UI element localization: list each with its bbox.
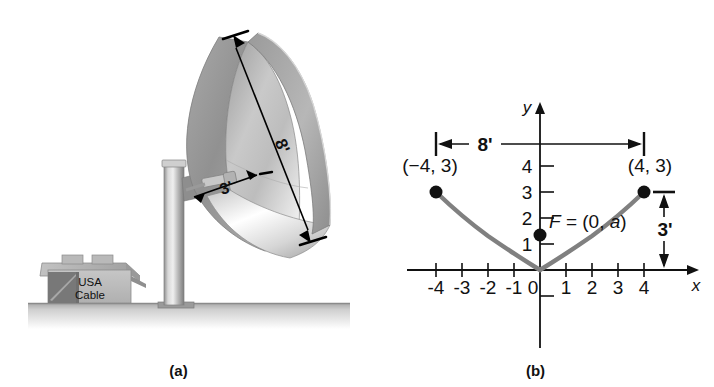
- point-label-left: (−4, 3): [402, 155, 457, 176]
- building-label-line1: USA: [78, 276, 102, 288]
- x-tick-label: -4: [428, 277, 445, 298]
- point-label-focus: F = (0, a): [549, 211, 627, 232]
- panel-a-caption: (a): [0, 362, 357, 379]
- dimension-3ft-height-label: 3': [657, 219, 672, 240]
- x-tick-label: -2: [480, 277, 497, 298]
- panel-b-chart: x y -4 -3 -2: [357, 0, 714, 387]
- dimension-8ft-width-label: 8': [477, 134, 492, 155]
- point-label-right: (4, 3): [628, 155, 672, 176]
- y-tick-label: 1: [522, 234, 533, 255]
- building-label-line2: Cable: [75, 289, 105, 301]
- x-tick-label: 3: [613, 277, 624, 298]
- y-tick-label: 4: [522, 156, 533, 177]
- satellite-dish-illustration: USA Cable: [0, 0, 357, 387]
- parabola-chart: x y -4 -3 -2: [357, 0, 714, 387]
- figure-root: USA Cable: [0, 0, 714, 387]
- dimension-3ft-height: 3': [651, 192, 679, 268]
- x-tick-label: -1: [506, 277, 523, 298]
- x-tick-label: 0: [528, 277, 539, 298]
- satellite-dish: [186, 33, 330, 258]
- point-right-endpoint: [638, 186, 651, 199]
- panel-b-caption: (b): [357, 362, 714, 379]
- x-tick-label: -3: [454, 277, 471, 298]
- x-tick-label: 2: [587, 277, 598, 298]
- y-tick-label: 3: [522, 182, 533, 203]
- y-axis-tick-labels: 1 2 3 4: [522, 156, 533, 255]
- y-tick-label: 2: [522, 208, 533, 229]
- x-tick-label: 4: [639, 277, 650, 298]
- point-focus: [534, 229, 547, 242]
- x-axis: x: [407, 265, 701, 295]
- x-tick-label: 1: [561, 277, 572, 298]
- x-axis-label: x: [691, 276, 701, 295]
- y-axis-label: y: [522, 98, 533, 117]
- panel-a-illustration: USA Cable: [0, 0, 357, 387]
- building: USA Cable: [40, 255, 146, 303]
- point-labels: (−4, 3) (4, 3) F = (0, a): [402, 155, 672, 232]
- point-left-endpoint: [430, 186, 443, 199]
- x-axis-tick-labels: -4 -3 -2 -1 0 1 2 3 4: [428, 277, 650, 298]
